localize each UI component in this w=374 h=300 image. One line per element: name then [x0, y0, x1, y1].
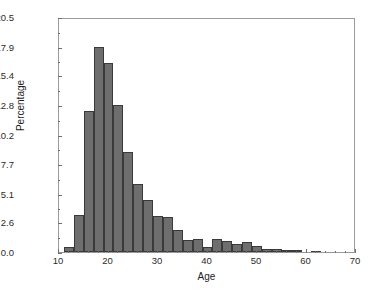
histogram-bar: [153, 216, 163, 252]
x-tick-label: 30: [142, 256, 172, 266]
x-tick-mark-minor: [127, 251, 128, 253]
x-tick-label: 70: [340, 256, 370, 266]
x-tick-mark-minor: [236, 251, 237, 253]
y-tick-mark: [58, 195, 62, 196]
y-tick-mark-minor: [58, 180, 60, 181]
histogram-bar: [84, 111, 94, 252]
histogram-bar: [282, 250, 292, 252]
y-tick-mark: [58, 18, 62, 19]
y-tick-mark: [58, 136, 62, 137]
x-tick-mark: [355, 249, 356, 253]
y-tick-label: 20.5: [0, 13, 14, 23]
y-tick-mark-minor: [58, 209, 60, 210]
x-tick-mark: [108, 249, 109, 253]
y-tick-mark: [58, 253, 62, 254]
x-tick-mark: [207, 249, 208, 253]
histogram-bar: [94, 47, 104, 252]
x-tick-mark-minor: [246, 251, 247, 253]
histogram-bar: [113, 105, 123, 252]
x-tick-mark-minor: [335, 251, 336, 253]
histogram-bar: [232, 244, 242, 252]
y-tick-label: 0.0: [0, 248, 14, 258]
x-tick-label: 10: [43, 256, 73, 266]
x-tick-mark: [306, 249, 307, 253]
x-tick-mark-minor: [226, 251, 227, 253]
x-tick-mark-minor: [167, 251, 168, 253]
x-tick-mark: [58, 249, 59, 253]
x-tick-mark-minor: [137, 251, 138, 253]
plot-area: [58, 18, 355, 253]
histogram-bar: [183, 240, 193, 252]
x-tick-mark-minor: [177, 251, 178, 253]
x-tick-mark-minor: [315, 251, 316, 253]
x-tick-label: 60: [291, 256, 321, 266]
y-tick-label: 2.6: [0, 218, 14, 228]
y-tick-mark: [58, 76, 62, 77]
x-tick-mark-minor: [266, 251, 267, 253]
x-tick-label: 40: [192, 256, 222, 266]
y-tick-mark: [58, 106, 62, 107]
x-tick-mark-minor: [187, 251, 188, 253]
x-tick-mark-minor: [276, 251, 277, 253]
y-tick-label: 10.2: [0, 131, 14, 141]
y-tick-mark-minor: [58, 238, 60, 239]
x-tick-mark: [256, 249, 257, 253]
bar-series: [59, 19, 354, 252]
x-tick-mark-minor: [296, 251, 297, 253]
y-tick-mark-minor: [58, 91, 60, 92]
y-tick-mark-minor: [58, 121, 60, 122]
histogram-bar: [163, 217, 173, 252]
x-tick-label: 20: [93, 256, 123, 266]
x-tick-mark-minor: [98, 251, 99, 253]
x-tick-mark-minor: [345, 251, 346, 253]
histogram-bar: [123, 152, 133, 252]
x-tick-mark-minor: [325, 251, 326, 253]
y-tick-label: 17.9: [0, 43, 14, 53]
histogram-bar: [104, 63, 114, 252]
x-tick-mark-minor: [147, 251, 148, 253]
x-tick-mark-minor: [78, 251, 79, 253]
y-tick-label: 5.1: [0, 190, 14, 200]
y-tick-label: 15.4: [0, 71, 14, 81]
y-tick-mark: [58, 165, 62, 166]
y-tick-label: 12.8: [0, 101, 14, 111]
histogram-bar: [74, 215, 84, 252]
histogram-bar: [143, 200, 153, 252]
y-tick-mark-minor: [58, 150, 60, 151]
y-tick-mark-minor: [58, 33, 60, 34]
y-tick-label: 7.7: [0, 160, 14, 170]
histogram-figure: Percentage Age 0.02.65.17.710.212.815.41…: [0, 0, 374, 300]
x-tick-mark-minor: [117, 251, 118, 253]
x-tick-mark-minor: [286, 251, 287, 253]
x-tick-mark: [157, 249, 158, 253]
x-tick-label: 50: [241, 256, 271, 266]
histogram-bar: [133, 184, 143, 252]
histogram-bar: [173, 230, 183, 252]
y-tick-mark-minor: [58, 62, 60, 63]
x-tick-mark-minor: [197, 251, 198, 253]
x-tick-mark-minor: [68, 251, 69, 253]
x-tick-mark-minor: [216, 251, 217, 253]
y-tick-mark: [58, 223, 62, 224]
x-tick-mark-minor: [88, 251, 89, 253]
y-tick-mark: [58, 48, 62, 49]
y-axis-title: Percentage: [15, 56, 26, 156]
x-axis-title: Age: [58, 271, 355, 282]
